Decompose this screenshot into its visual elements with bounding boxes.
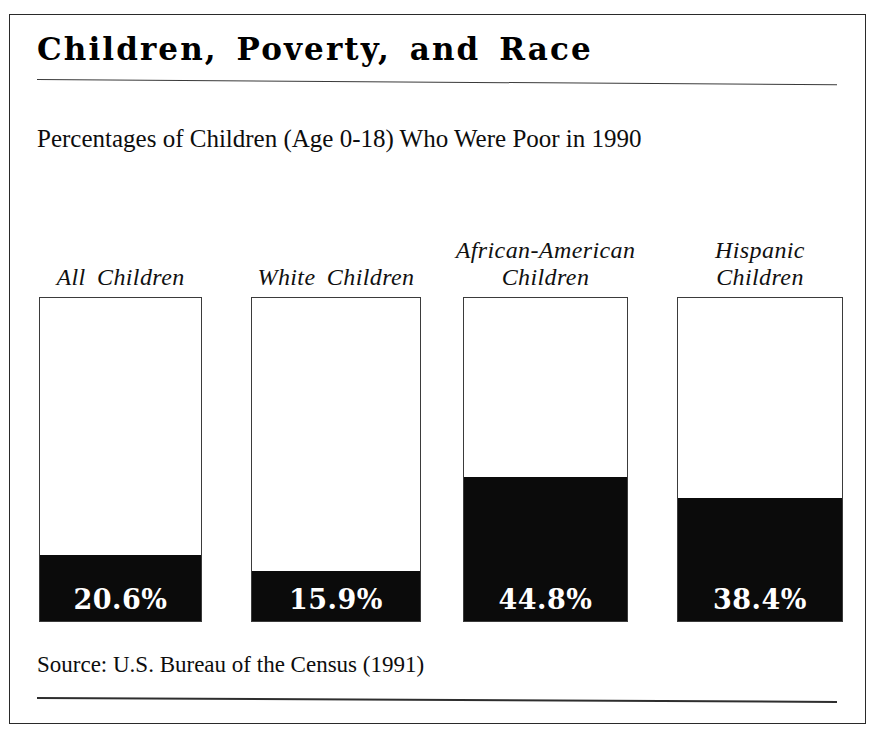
bar-group-hispanic-children: Hispanic Children 38.4%	[677, 297, 843, 622]
bar-outline: 38.4%	[677, 297, 843, 622]
bar-outline: 44.8%	[463, 297, 628, 622]
bar-category-label: African-American Children	[431, 237, 661, 291]
bar-category-label-line1: White Children	[221, 264, 451, 291]
bar-chart-plot-area: All Children 20.6% White Children 15.9%	[10, 15, 867, 725]
bar-group-all-children: All Children 20.6%	[39, 297, 202, 622]
bar-fill: 38.4%	[677, 498, 843, 622]
bar-group-white-children: White Children 15.9%	[251, 297, 421, 622]
bar-category-label-line1: African-American	[431, 237, 661, 264]
bar-value-label: 15.9%	[289, 584, 383, 622]
bar-value-label: 38.4%	[713, 584, 807, 622]
bar-category-label: All Children	[6, 264, 236, 291]
bar-category-label-line2: Children	[431, 264, 661, 291]
bar-category-label-line1: All Children	[6, 264, 236, 291]
bar-value-label: 20.6%	[74, 584, 168, 622]
bar-outline: 20.6%	[39, 297, 202, 622]
bar-outline: 15.9%	[251, 297, 421, 622]
figure-frame: Children, Poverty, and Race Percentages …	[9, 14, 866, 724]
bar-fill: 44.8%	[463, 477, 628, 622]
bar-category-label-line2: Children	[645, 264, 875, 291]
bar-fill: 20.6%	[39, 555, 202, 622]
bar-group-african-american-children: African-American Children 44.8%	[463, 297, 628, 622]
source-note: Source: U.S. Bureau of the Census (1991)	[37, 652, 424, 678]
bar-category-label-line1: Hispanic	[645, 237, 875, 264]
bar-fill: 15.9%	[251, 571, 421, 622]
bar-category-label: White Children	[221, 264, 451, 291]
bar-category-label: Hispanic Children	[645, 237, 875, 291]
bar-value-label: 44.8%	[499, 584, 593, 622]
